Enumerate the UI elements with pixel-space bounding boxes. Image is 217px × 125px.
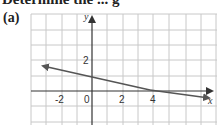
x-axis-label: x	[207, 95, 213, 106]
x-tick-4: 4	[150, 94, 156, 105]
x-tick-2: 2	[119, 94, 125, 105]
x-tick-0: 0	[84, 94, 90, 105]
plotted-line	[43, 66, 150, 90]
coordinate-graph: y x 2 -2 0 2 4	[0, 0, 217, 125]
y-tick-2: 2	[83, 55, 89, 66]
y-axis-label: y	[83, 11, 89, 22]
x-tick-neg2: -2	[55, 94, 64, 105]
